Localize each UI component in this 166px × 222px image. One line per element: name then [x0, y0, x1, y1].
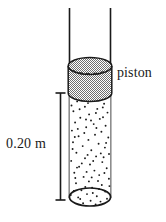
dimension-line: [56, 93, 66, 200]
diagram-canvas: [0, 0, 166, 222]
gas-region: [70, 93, 111, 206]
piston-label: piston: [117, 65, 152, 81]
gas-fill: [70, 93, 111, 206]
length-dimension-label: 0.20 m: [6, 136, 46, 152]
gas-cylinder-piston-figure: piston 0.20 m: [0, 0, 166, 222]
piston: [68, 58, 112, 102]
